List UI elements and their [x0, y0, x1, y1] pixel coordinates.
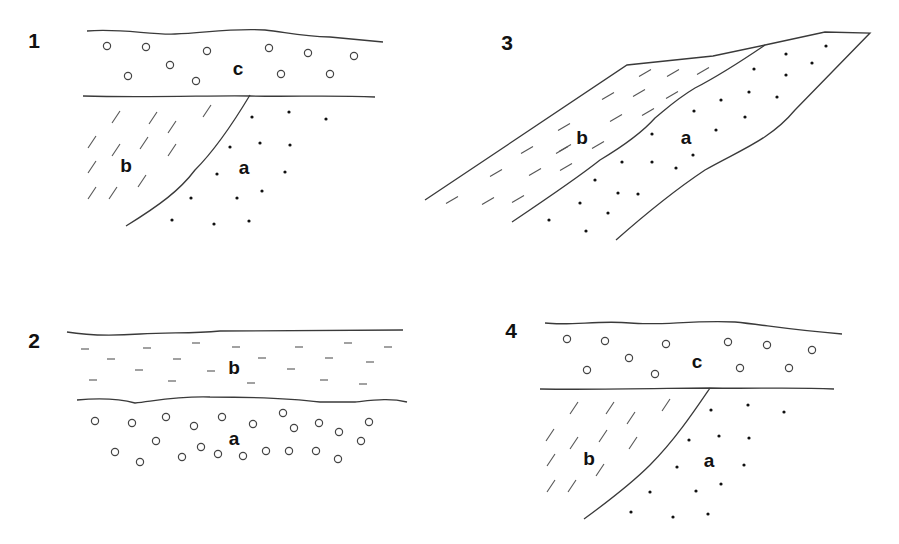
pebble-symbol: [249, 420, 256, 427]
sand-dot-symbol: [288, 143, 291, 146]
shale-tick-symbol: [570, 402, 578, 414]
pebble-symbol: [357, 437, 364, 444]
sand-dot-symbol: [247, 219, 250, 222]
panel-number: 1: [28, 29, 40, 52]
pebble-symbol: [334, 455, 341, 462]
shale-tick-symbol: [610, 115, 622, 122]
pebble-symbol: [239, 452, 246, 459]
shale-tick-symbol: [88, 136, 96, 148]
shale-tick-symbol: [639, 70, 651, 77]
pebble-symbol: [808, 346, 815, 353]
pebble-symbol: [265, 44, 272, 51]
shale-tick-symbol: [112, 144, 120, 156]
pebble-symbol: [124, 72, 131, 79]
shale-tick-symbol: [570, 437, 578, 449]
shale-tick-symbol: [596, 464, 604, 476]
shale-tick-symbol: [627, 412, 635, 424]
sand-dot-symbol: [578, 201, 581, 204]
shale-tick-symbol: [667, 70, 679, 77]
sand-dot-symbol: [784, 73, 787, 76]
pebble-symbol: [583, 366, 590, 373]
sand-dot-symbol: [719, 98, 722, 101]
pebble-symbol: [312, 447, 319, 454]
sand-dot-symbol: [747, 436, 750, 439]
shale-tick-symbol: [547, 480, 555, 492]
sand-dot-symbol: [629, 510, 632, 513]
shale-tick-symbol: [547, 454, 555, 466]
sand-dot-symbol: [235, 196, 238, 199]
panel-3: 3ba: [425, 31, 870, 240]
sand-dot-symbol: [706, 512, 709, 515]
shale-tick-symbol: [666, 92, 678, 99]
sand-dot-symbol: [620, 160, 623, 163]
diagram-canvas: 1cba3ba2ba4cba: [0, 0, 899, 544]
shale-tick-symbol: [168, 144, 176, 156]
pebble-symbol: [142, 43, 149, 50]
pebble-symbol: [103, 42, 110, 49]
geologic-cross-section-figure: 1cba3ba2ba4cba: [0, 0, 899, 544]
pebble-symbol: [724, 338, 731, 345]
layer-label-a: a: [229, 428, 240, 449]
sand-dot-symbol: [714, 128, 717, 131]
sand-dot-symbol: [746, 403, 749, 406]
shale-tick-symbol: [599, 430, 607, 442]
shale-tick-symbol: [88, 187, 96, 199]
layer-boundary-line: [83, 96, 375, 97]
layer-boundary-line: [126, 95, 250, 226]
sand-dot-symbol: [258, 141, 261, 144]
pebble-symbol: [662, 340, 669, 347]
panel-number: 4: [505, 319, 517, 342]
sand-dot-symbol: [747, 90, 750, 93]
pebble-symbol: [203, 47, 210, 54]
pebble-symbol: [315, 419, 322, 426]
shale-tick-symbol: [592, 142, 604, 149]
sand-dot-symbol: [636, 192, 639, 195]
sand-dot-symbol: [650, 132, 653, 135]
panel-2: 2ba: [28, 329, 407, 466]
sand-dot-symbol: [691, 153, 694, 156]
sand-dot-symbol: [782, 410, 785, 413]
shale-tick-symbol: [606, 402, 614, 414]
layer-label-b: b: [576, 127, 588, 148]
pebble-symbol: [326, 70, 333, 77]
pebble-symbol: [736, 364, 743, 371]
shale-tick-symbol: [546, 429, 554, 441]
pebble-symbol: [190, 422, 197, 429]
sand-dot-symbol: [616, 191, 619, 194]
pebble-symbol: [136, 458, 143, 465]
shale-tick-symbol: [112, 111, 120, 123]
pebble-symbol: [197, 443, 204, 450]
pebble-symbol: [218, 413, 225, 420]
layer-boundary-line: [87, 30, 383, 42]
pebble-symbol: [601, 337, 608, 344]
shale-tick-symbol: [140, 137, 148, 149]
layer-boundary-line: [545, 322, 842, 334]
sand-dot-symbol: [584, 229, 587, 232]
panel-4: 4cba: [505, 319, 842, 519]
sand-dot-symbol: [215, 172, 218, 175]
sand-dot-symbol: [784, 52, 787, 55]
sand-dot-symbol: [694, 489, 697, 492]
sand-dot-symbol: [593, 178, 596, 181]
sand-dot-symbol: [606, 211, 609, 214]
pebble-symbol: [625, 354, 632, 361]
sand-dot-symbol: [810, 61, 813, 64]
layer-boundary-line: [584, 388, 710, 519]
pebble-symbol: [162, 413, 169, 420]
pebble-symbol: [192, 77, 199, 84]
panel-1: 1cba: [28, 29, 383, 226]
shale-tick-symbol: [568, 480, 576, 492]
shale-tick-symbol: [168, 121, 176, 133]
panel-number: 3: [501, 31, 513, 54]
pebble-symbol: [365, 418, 372, 425]
layer-label-b: b: [120, 155, 132, 176]
shale-tick-symbol: [633, 90, 645, 97]
layer-label-c: c: [692, 351, 703, 372]
pebble-symbol: [304, 49, 311, 56]
pebble-symbol: [128, 419, 135, 426]
sand-dot-symbol: [743, 115, 746, 118]
sand-dot-symbol: [675, 465, 678, 468]
sand-dot-symbol: [212, 222, 215, 225]
shale-tick-symbol: [138, 175, 146, 187]
sand-dot-symbol: [692, 109, 695, 112]
